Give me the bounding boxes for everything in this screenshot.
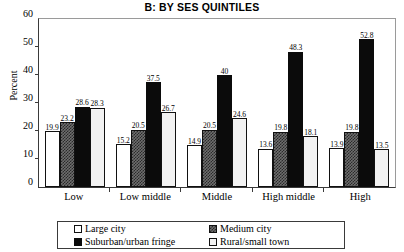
- x-axis-labels: LowLow middleMiddleHigh middleHigh: [38, 191, 396, 202]
- legend-label: Suburban/urban fringe: [85, 237, 175, 247]
- y-axis-label: Percent: [8, 51, 19, 121]
- y-tick-label: 0: [9, 177, 33, 187]
- x-axis-category-label: High: [324, 191, 396, 202]
- bar-value-label: 18.1: [304, 129, 317, 137]
- bar[interactable]: 19.9: [45, 131, 60, 187]
- y-tick-label: 40: [9, 65, 33, 75]
- legend-label: Large city: [85, 224, 126, 234]
- bar-value-label: 20.5: [132, 122, 145, 130]
- bar[interactable]: 23.2: [60, 122, 75, 187]
- bar-value-label: 28.3: [91, 100, 104, 108]
- bar[interactable]: 14.9: [187, 145, 202, 187]
- bar-groups: 19.923.228.628.315.220.537.526.714.920.5…: [39, 19, 395, 187]
- bar-value-label: 19.9: [46, 124, 59, 132]
- bar-value-label: 24.6: [233, 111, 246, 119]
- bar-value-label: 13.9: [330, 141, 343, 149]
- bar-group: 14.920.54024.6: [181, 19, 252, 187]
- bar[interactable]: 13.9: [329, 148, 344, 187]
- bar[interactable]: 18.1: [303, 136, 318, 187]
- legend-swatch-icon: [209, 225, 217, 233]
- bar[interactable]: 26.7: [161, 112, 176, 187]
- bar[interactable]: 40: [217, 75, 232, 187]
- legend-item[interactable]: Rural/small town: [201, 237, 342, 247]
- x-axis-category-label: Low middle: [110, 191, 182, 202]
- bar[interactable]: 28.3: [90, 108, 105, 187]
- legend-label: Rural/small town: [220, 237, 289, 247]
- bar[interactable]: 52.8: [359, 39, 374, 187]
- y-tick-label: 50: [9, 37, 33, 47]
- chart-title: B: BY SES QUINTILES: [0, 1, 404, 13]
- bar-value-label: 40: [221, 68, 229, 76]
- bar-value-label: 15.2: [117, 137, 130, 145]
- legend-label: Medium city: [220, 224, 271, 234]
- legend-item[interactable]: Medium city: [201, 224, 342, 234]
- bar[interactable]: 28.6: [75, 107, 90, 187]
- bar-value-label: 28.6: [76, 99, 89, 107]
- x-axis-category-label: Low: [38, 191, 110, 202]
- bar[interactable]: 37.5: [146, 82, 161, 187]
- plot-area: 0102030405060 19.923.228.628.315.220.537…: [38, 18, 396, 188]
- y-tick-label: 20: [9, 121, 33, 131]
- bar[interactable]: 19.8: [344, 132, 359, 187]
- bar-value-label: 19.8: [274, 124, 287, 132]
- bar-group: 19.923.228.628.3: [39, 19, 110, 187]
- bar[interactable]: 13.6: [258, 149, 273, 187]
- legend-item[interactable]: Large city: [60, 224, 201, 234]
- bar-value-label: 26.7: [162, 105, 175, 113]
- bar-value-label: 20.5: [203, 122, 216, 130]
- bar-value-label: 23.2: [61, 115, 74, 123]
- bar[interactable]: 20.5: [131, 130, 146, 187]
- bar-value-label: 19.8: [345, 124, 358, 132]
- bar-value-label: 52.8: [360, 32, 373, 40]
- bar[interactable]: 20.5: [202, 130, 217, 187]
- bar-group: 13.919.852.813.5: [324, 19, 395, 187]
- bar-value-label: 13.5: [375, 142, 388, 150]
- bar-value-label: 48.3: [289, 44, 302, 52]
- bar[interactable]: 13.5: [374, 149, 389, 187]
- chart-legend: Large cityMedium citySuburban/urban frin…: [57, 221, 345, 249]
- bar-value-label: 13.6: [259, 141, 272, 149]
- y-tick-label: 30: [9, 93, 33, 103]
- x-axis-category-label: High middle: [253, 191, 325, 202]
- bar-value-label: 14.9: [188, 138, 201, 146]
- bar-group: 13.619.848.318.1: [253, 19, 324, 187]
- legend-swatch-icon: [74, 225, 82, 233]
- bar-group: 15.220.537.526.7: [110, 19, 181, 187]
- y-tick-label: 60: [9, 9, 33, 19]
- bar-value-label: 37.5: [147, 75, 160, 83]
- legend-item[interactable]: Suburban/urban fringe: [60, 237, 201, 247]
- chart-container: B: BY SES QUINTILES Percent 010203040506…: [0, 0, 404, 252]
- y-tick-label: 10: [9, 149, 33, 159]
- legend-swatch-icon: [74, 238, 82, 246]
- bar[interactable]: 24.6: [232, 118, 247, 187]
- bar[interactable]: 19.8: [273, 132, 288, 187]
- legend-swatch-icon: [209, 238, 217, 246]
- bar[interactable]: 48.3: [288, 52, 303, 187]
- bar[interactable]: 15.2: [116, 144, 131, 187]
- x-axis-category-label: Middle: [181, 191, 253, 202]
